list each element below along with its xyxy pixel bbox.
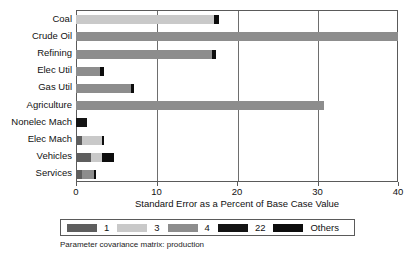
bar-segment-22 xyxy=(76,118,87,127)
bar-segment-others xyxy=(214,15,220,24)
legend-swatch-4 xyxy=(168,224,198,232)
category-axis-labels: CoalCrude OilRefiningElec UtilGas UtilAg… xyxy=(0,10,72,182)
legend-swatch-others xyxy=(273,224,303,232)
category-label-gas-util: Gas Util xyxy=(0,82,72,92)
bar-segment-4 xyxy=(76,67,100,76)
x-tick-label-30: 30 xyxy=(303,186,333,197)
bar-segment-4 xyxy=(76,84,131,93)
legend: 13422Others xyxy=(60,219,355,236)
legend-label-1: 1 xyxy=(104,222,109,233)
bar-segment-others xyxy=(100,67,104,76)
bar-refining xyxy=(76,50,216,59)
bar-segment-others xyxy=(102,136,104,145)
legend-entry-1: 1 xyxy=(61,220,111,235)
category-label-elec-mach: Elec Mach xyxy=(0,134,72,144)
legend-label-22: 22 xyxy=(255,222,266,233)
bar-segment-4 xyxy=(82,170,94,179)
bar-segment-4 xyxy=(76,32,398,41)
bar-services xyxy=(76,170,96,179)
bar-vehicles xyxy=(76,153,114,162)
legend-swatch-22 xyxy=(218,224,248,232)
legend-entry-others: Others xyxy=(267,220,341,235)
chart-caption: Parameter covariance matrix: production xyxy=(60,240,204,249)
legend-swatch-3 xyxy=(117,224,147,232)
bar-segment-others xyxy=(102,153,114,162)
bar-crude-oil xyxy=(76,32,398,41)
x-tick-label-20: 20 xyxy=(222,186,252,197)
bar-agriculture xyxy=(76,101,324,110)
category-label-vehicles: Vehicles xyxy=(0,151,72,161)
bar-gas-util xyxy=(76,84,134,93)
x-tick-label-40: 40 xyxy=(383,186,413,197)
x-tick-label-0: 0 xyxy=(61,186,91,197)
category-label-nonelec-mach: Nonelec Mach xyxy=(0,117,72,127)
legend-swatch-1 xyxy=(67,224,97,232)
bar-segment-4 xyxy=(76,50,212,59)
category-label-coal: Coal xyxy=(0,14,72,24)
bar-segment-others xyxy=(94,170,96,179)
legend-label-3: 3 xyxy=(154,222,159,233)
category-label-agriculture: Agriculture xyxy=(0,100,72,110)
legend-label-others: Others xyxy=(310,222,339,233)
x-axis-title: Standard Error as a Percent of Base Case… xyxy=(76,198,398,209)
bar-segment-4 xyxy=(76,101,324,110)
legend-label-4: 4 xyxy=(205,222,210,233)
bar-segment-1 xyxy=(76,153,91,162)
legend-entry-22: 22 xyxy=(212,220,268,235)
category-label-crude-oil: Crude Oil xyxy=(0,31,72,41)
x-tick-label-10: 10 xyxy=(142,186,172,197)
category-label-services: Services xyxy=(0,168,72,178)
bar-elec-util xyxy=(76,67,104,76)
bar-elec-mach xyxy=(76,136,104,145)
bar-segment-others xyxy=(131,84,134,93)
legend-entry-4: 4 xyxy=(162,220,212,235)
category-label-refining: Refining xyxy=(0,48,72,58)
chart-root: CoalCrude OilRefiningElec UtilGas UtilAg… xyxy=(0,0,414,256)
bar-segment-3 xyxy=(82,136,101,145)
bar-coal xyxy=(76,15,219,24)
legend-entry-3: 3 xyxy=(111,220,161,235)
bar-segment-3 xyxy=(76,15,214,24)
bar-nonelec-mach xyxy=(76,118,87,127)
bar-segment-others xyxy=(212,50,216,59)
bar-segment-3 xyxy=(91,153,101,162)
bars-layer xyxy=(76,10,398,182)
category-label-elec-util: Elec Util xyxy=(0,65,72,75)
